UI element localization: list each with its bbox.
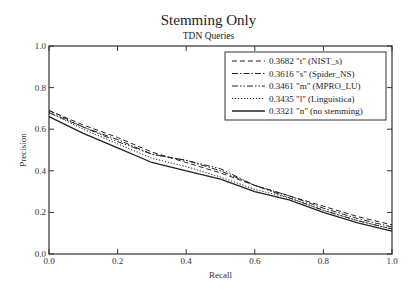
legend-label-1: 0.3616 "s" (Spider_NS) [269,69,355,79]
legend-label-4: 0.3321 "n" (no stemming) [269,106,363,116]
legend-label-3: 0.3435 "l" (Linguistica) [269,94,355,104]
x-tick-label: 0.6 [249,256,261,266]
y-tick-label: 0.8 [35,83,47,93]
y-tick-label: 0.4 [35,166,47,176]
x-axis-label: Recall [209,270,232,280]
y-tick-label: 1.0 [35,41,47,51]
x-tick-label: 0.8 [318,256,330,266]
legend-label-2: 0.3461 "m" (MPRO_LU) [269,81,361,91]
x-tick-label: 0.4 [181,256,193,266]
y-axis-label: Precision [18,133,28,167]
y-tick-label: 0.6 [35,124,47,134]
series-line-0 [49,111,392,225]
line-chart: 0.00.20.40.60.81.00.00.20.40.60.81.0Reca… [0,0,417,291]
y-tick-label: 0.2 [35,207,46,217]
x-tick-label: 1.0 [386,256,398,266]
y-tick-label: 0.0 [35,249,47,259]
x-tick-label: 0.2 [112,256,123,266]
series-line-1 [49,113,392,227]
legend-label-0: 0.3682 "t" (NIST_s) [269,56,342,66]
